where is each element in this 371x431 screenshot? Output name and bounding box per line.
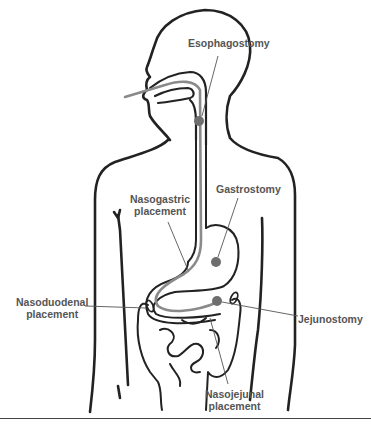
left-arm-bottom: [118, 386, 120, 398]
label-nasojejunal-line1: Nasojejunal: [205, 388, 264, 400]
label-nasoduodenal-line2: placement: [16, 308, 88, 320]
jejunostomy-marker: [212, 296, 222, 306]
label-nasoduodenal: Nasoduodenal placement: [16, 296, 88, 320]
label-nasojejunal-line2: placement: [205, 400, 264, 412]
label-nasogastric-line1: Nasogastric: [130, 193, 190, 205]
label-nasogastric: Nasogastric placement: [130, 193, 190, 217]
body-outline-right: [227, 45, 295, 410]
palate: [155, 88, 194, 103]
left-arm-inner: [118, 215, 128, 385]
gastrostomy-marker: [211, 257, 221, 267]
label-nasojejunal: Nasojejunal placement: [205, 388, 264, 412]
bottom-divider: [0, 418, 371, 419]
small-intestine: [160, 318, 219, 386]
leader-nasogastric: [168, 222, 188, 270]
esophagostomy-marker: [194, 116, 204, 126]
leader-nasojejunal: [210, 318, 228, 384]
label-gastrostomy: Gastrostomy: [216, 183, 281, 195]
label-jejunostomy: Jejunostomy: [298, 313, 363, 325]
colon: [138, 304, 162, 410]
body-outline-left-torso: [90, 140, 168, 412]
label-nasoduodenal-line1: Nasoduodenal: [16, 296, 88, 308]
leader-gastrostomy: [218, 198, 238, 257]
left-arm-tick: [114, 210, 120, 218]
label-nasogastric-line2: placement: [130, 205, 190, 217]
label-esophagostomy: Esophagostomy: [188, 37, 270, 49]
